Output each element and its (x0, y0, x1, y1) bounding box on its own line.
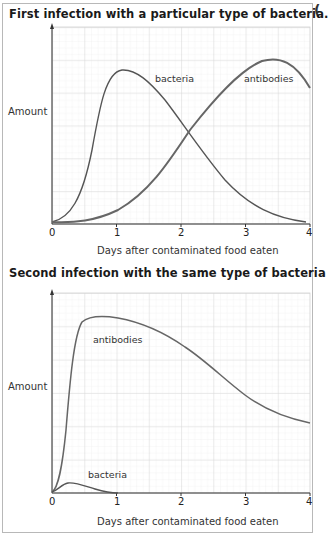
chart-2-y-label: Amount (8, 381, 47, 392)
chart-1-x-tick-1: 1 (114, 227, 120, 238)
chart-1-y-arrow-icon (50, 23, 54, 29)
chart-2-x-tick-2: 2 (178, 496, 184, 507)
chart-1-y-label: Amount (8, 106, 47, 117)
chart-2-x-tick-3: 3 (243, 496, 249, 507)
chart-1-x-tick-0: 0 (49, 227, 55, 238)
chart-1-x-label: Days after contaminated food eaten (97, 245, 279, 256)
chart-1-antibodies-label: antibodies (244, 73, 294, 84)
chart-2-x-label: Days after contaminated food eaten (97, 516, 279, 527)
chart-1-plot (0, 0, 320, 265)
chart-2-antibodies-label: antibodies (93, 334, 143, 345)
chart-2-bacteria-label: bacteria (88, 469, 127, 480)
chart-1-bacteria-label: bacteria (155, 73, 194, 84)
chart-2-x-tick-0: 0 (49, 496, 55, 507)
chart-1-x-tick-4: 4 (306, 227, 312, 238)
chart-2-x-tick-4: 4 (306, 496, 312, 507)
chart-2-x-tick-1: 1 (114, 496, 120, 507)
chart-1-x-tick-2: 2 (178, 227, 184, 238)
chart-1-grid (52, 27, 310, 224)
chart-1-x-tick-3: 3 (243, 227, 249, 238)
chart-2-title: Second infection with the same type of b… (9, 266, 326, 280)
